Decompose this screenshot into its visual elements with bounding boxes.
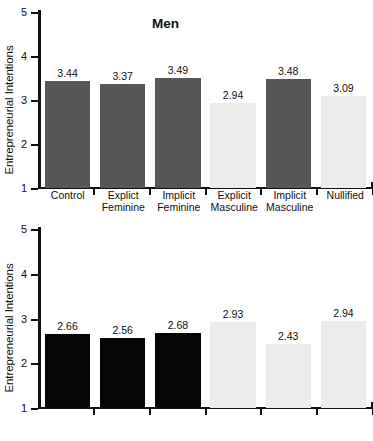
- bar-value-label: 2.68: [155, 319, 200, 333]
- bar-group-women: 2.662.562.682.932.432.94: [40, 229, 371, 408]
- bar-value-label: 3.44: [45, 67, 90, 81]
- x-axis-label-line: Masculine: [262, 202, 318, 214]
- bar-women-nullified[interactable]: 2.94: [321, 321, 366, 408]
- bar-women-explict-feminine[interactable]: 2.56: [100, 338, 145, 408]
- x-tick-women-1: [93, 408, 95, 415]
- bar-men-implicit-feminine[interactable]: 3.49: [155, 78, 200, 188]
- bar-value-label: 2.66: [45, 320, 90, 334]
- x-axis-label-line: Masculine: [207, 202, 263, 214]
- bar-value-label: 2.56: [100, 324, 145, 338]
- plot-area-women: 2.662.562.682.932.432.94 12345: [38, 229, 373, 408]
- y-tick-label-women-5: 5: [21, 223, 27, 235]
- y-tick-label-women-4: 4: [21, 268, 27, 280]
- x-axis-label-men-implicit-feminine: ImplicitFeminine: [151, 190, 207, 213]
- y-tick-label-men-1: 1: [21, 182, 27, 194]
- bar-value-label: 3.48: [266, 65, 311, 79]
- x-axis-label-line: Control: [40, 190, 96, 202]
- x-axis-label-line: Explicit: [207, 190, 263, 202]
- y-tick-label-women-1: 1: [21, 402, 27, 414]
- y-tick-women-4: [31, 274, 38, 276]
- y-tick-women-1: [31, 408, 38, 410]
- bar-slot: 2.93: [206, 229, 261, 408]
- x-axis-label-men-explict-feminine: ExplictFeminine: [96, 190, 152, 213]
- y-tick-men-3: [31, 100, 38, 102]
- bar-men-implicit-masculine[interactable]: 3.48: [266, 79, 311, 188]
- x-axis-label-line: Feminine: [151, 202, 207, 214]
- bar-women-implicit-masculine[interactable]: 2.43: [266, 344, 311, 408]
- y-tick-women-2: [31, 363, 38, 365]
- bar-men-nullified[interactable]: 3.09: [321, 96, 366, 188]
- y-axis-label-men: Entrepreneurial Intentions: [0, 0, 18, 220]
- x-axis-label-men-explicit-masculine: ExplicitMasculine: [207, 190, 263, 213]
- bar-slot: 2.94: [206, 12, 261, 188]
- bar-value-label: 2.93: [210, 308, 255, 322]
- bar-women-control[interactable]: 2.66: [45, 334, 90, 408]
- bar-women-implicit-feminine[interactable]: 2.68: [155, 333, 200, 408]
- plot-area-men: 3.443.373.492.943.483.09 12345: [38, 12, 373, 188]
- bar-slot: 2.56: [95, 229, 150, 408]
- bar-value-label: 3.37: [100, 70, 145, 84]
- x-axis-label-line: Explict: [96, 190, 152, 202]
- y-tick-label-men-4: 4: [21, 50, 27, 62]
- y-tick-men-5: [31, 12, 38, 14]
- x-tick-women-5: [316, 408, 318, 415]
- bar-slot: 3.48: [261, 12, 316, 188]
- y-tick-label-women-2: 2: [21, 357, 27, 369]
- y-tick-label-men-2: 2: [21, 138, 27, 150]
- x-axis-label-line: Implicit: [262, 190, 318, 202]
- bar-slot: 3.09: [316, 12, 371, 188]
- x-axis-label-men-control: Control: [40, 190, 96, 202]
- y-tick-label-men-3: 3: [21, 94, 27, 106]
- bar-slot: 2.43: [261, 229, 316, 408]
- bar-women-explicit-masculine[interactable]: 2.93: [210, 322, 255, 408]
- x-axis-label-men-implicit-masculine: ImplicitMasculine: [262, 190, 318, 213]
- bar-slot: 3.49: [150, 12, 205, 188]
- bar-slot: 3.37: [95, 12, 150, 188]
- bar-value-label: 2.94: [321, 307, 366, 321]
- bar-slot: 2.68: [150, 229, 205, 408]
- bar-slot: 2.94: [316, 229, 371, 408]
- y-tick-men-2: [31, 144, 38, 146]
- bar-slot: 2.66: [40, 229, 95, 408]
- bar-men-control[interactable]: 3.44: [45, 81, 90, 188]
- bar-value-label: 2.94: [210, 89, 255, 103]
- y-axis-label-women: Entrepreneurial Intentions: [0, 215, 18, 441]
- x-axis-label-line: Implicit: [151, 190, 207, 202]
- bar-value-label: 2.43: [266, 330, 311, 344]
- bar-value-label: 3.49: [155, 64, 200, 78]
- bar-group-men: 3.443.373.492.943.483.09: [40, 12, 371, 188]
- y-tick-men-4: [31, 56, 38, 58]
- x-axis-label-line: Feminine: [96, 202, 152, 214]
- x-axis-label-line: Nullified: [318, 190, 373, 202]
- y-tick-women-3: [31, 319, 38, 321]
- bar-value-label: 3.09: [321, 82, 366, 96]
- y-tick-label-men-5: 5: [21, 6, 27, 18]
- y-tick-men-1: [31, 188, 38, 190]
- bar-slot: 3.44: [40, 12, 95, 188]
- x-tick-women-3: [205, 408, 207, 415]
- x-tick-women-2: [149, 408, 151, 415]
- chart-panel-women: Entrepreneurial Intentions Women 2.662.5…: [0, 215, 373, 441]
- bar-men-explicit-masculine[interactable]: 2.94: [210, 103, 255, 188]
- chart-panel-men: Entrepreneurial Intentions Men 3.443.373…: [0, 0, 373, 220]
- x-tick-women-4: [260, 408, 262, 415]
- y-tick-women-5: [31, 229, 38, 231]
- x-axis-label-men-nullified: Nullified: [318, 190, 373, 202]
- bar-men-explict-feminine[interactable]: 3.37: [100, 84, 145, 188]
- y-tick-label-women-3: 3: [21, 313, 27, 325]
